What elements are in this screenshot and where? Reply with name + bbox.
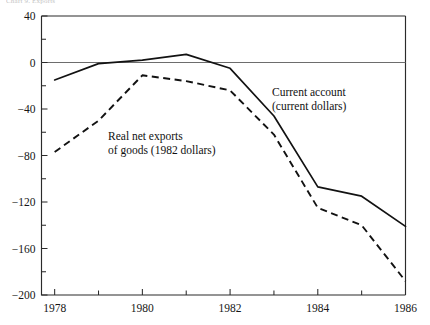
y-tick-label: 0 [30, 57, 36, 69]
x-axis-tick-labels: 19781980198219841986 [43, 302, 417, 314]
y-tick-label: −200 [12, 289, 36, 301]
series-annotation-2: Real net exportsof goods (1982 dollars) [108, 130, 216, 157]
y-tick-label: −120 [12, 196, 36, 208]
line-chart-plot: 400−40−80−120−160−200 197819801982198419… [0, 0, 430, 325]
tick-marks-layer [42, 16, 406, 295]
x-tick-label: 1982 [219, 302, 242, 314]
y-axis-tick-labels: 400−40−80−120−160−200 [12, 10, 36, 301]
chart-figure: Chart 9. Exports 400−40−80−120−160−200 1… [0, 0, 430, 325]
series-annotation-1: Current account(current dollars) [272, 86, 347, 113]
x-tick-label: 1986 [394, 302, 417, 314]
y-tick-label: −80 [18, 150, 36, 162]
series-line-2 [55, 75, 406, 281]
x-tick-label: 1980 [131, 302, 154, 314]
x-tick-label: 1984 [306, 302, 329, 314]
data-series-layer [55, 54, 406, 281]
axis-spines [42, 16, 406, 295]
x-tick-label: 1978 [43, 302, 66, 314]
y-tick-label: −160 [12, 243, 36, 255]
y-tick-label: −40 [18, 103, 36, 115]
series-annotations-layer: Current account(current dollars)Real net… [108, 86, 347, 157]
axes-layer [42, 16, 406, 295]
y-tick-label: 40 [24, 10, 36, 22]
